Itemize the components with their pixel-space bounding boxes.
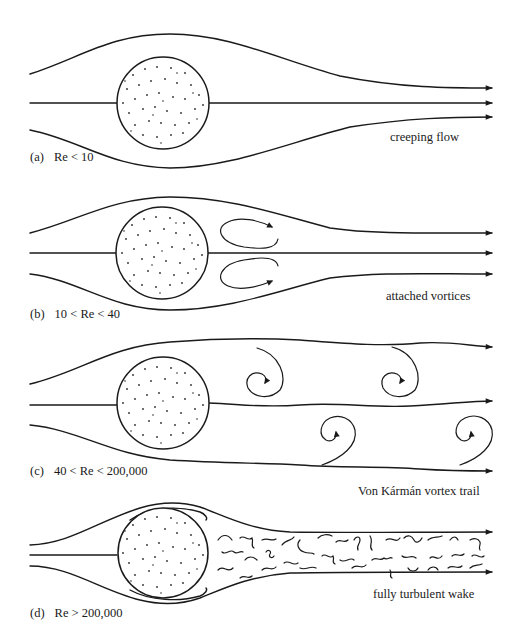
- panel-label: (d)Re > 200,000: [30, 606, 122, 620]
- regime-caption: fully turbulent wake: [373, 587, 475, 601]
- panel-label: (c)40 < Re < 200,000: [30, 464, 148, 478]
- cylinder: [118, 508, 208, 598]
- shed-vortex-lower-1: [321, 417, 355, 466]
- cylinder: [117, 57, 209, 149]
- cylinder: [116, 207, 208, 299]
- panel-d: (d)Re > 200,000 fully turbulent wake: [30, 503, 492, 620]
- streamline-top: [30, 34, 492, 88]
- panel-label: (a)Re < 10: [30, 150, 94, 164]
- flow-regimes-diagram: (a)Re < 10 creeping flow (b)10 < Re < 40…: [0, 0, 521, 642]
- regime-caption: Von Kármán vortex trail: [358, 484, 480, 498]
- streamline-center-right: [209, 401, 492, 406]
- regime-caption: attached vortices: [386, 289, 470, 303]
- panel-c: (c)40 < Re < 200,000 Von Kármán vortex t…: [30, 339, 492, 498]
- streamline-top: [30, 503, 492, 545]
- streamline-top: [30, 197, 492, 233]
- streamline-top: [30, 339, 492, 384]
- attached-vortex-upper: [221, 219, 278, 248]
- shed-vortex-lower-2: [456, 416, 492, 465]
- panel-b: (b)10 < Re < 40 attached vortices: [30, 197, 492, 321]
- panel-a: (a)Re < 10 creeping flow: [30, 34, 492, 168]
- shed-vortex-upper-1: [247, 348, 283, 397]
- attached-vortex-lower: [221, 258, 278, 288]
- regime-caption: creeping flow: [390, 130, 459, 144]
- panel-label: (b)10 < Re < 40: [30, 307, 120, 321]
- cylinder: [117, 357, 209, 449]
- shed-vortex-upper-2: [382, 347, 418, 397]
